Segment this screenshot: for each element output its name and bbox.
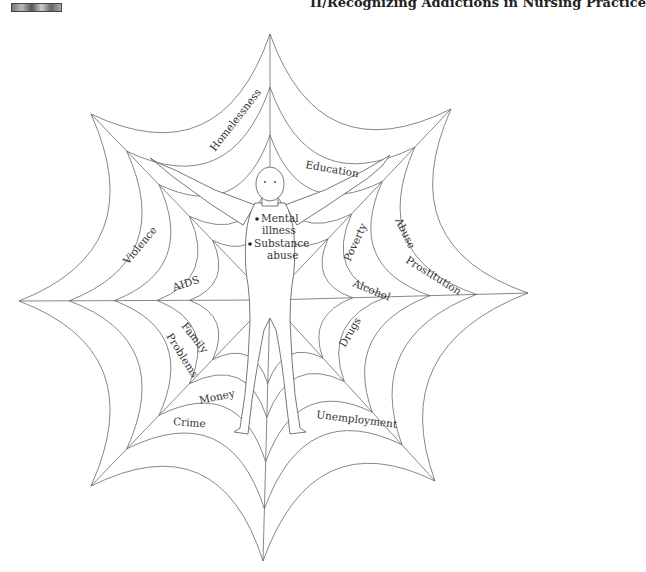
right-eye [274,181,276,183]
web-ring-arc [91,466,263,561]
web-label-money: Money [198,387,236,406]
web-spoke [263,300,270,561]
web-spoke [19,300,270,301]
web-spoke [270,293,528,300]
web-ring-arc [270,34,451,130]
web-ring-arc [423,293,528,481]
web-label-education: Education [305,158,360,179]
web-label-poverty: Poverty [341,221,369,263]
web-label-prostitution: Prostitution [404,254,464,298]
web-ring-arc [365,296,430,413]
web-ring-arc [114,301,170,416]
web-ring-arc [264,431,402,509]
web-label-crime: Crime [173,415,206,429]
web-ring-arc [69,151,142,301]
web-ring-arc [19,301,110,486]
web-label-homelessness: Homelessness [207,86,263,153]
web-ring-arc [19,114,110,301]
web-label-alcohol: Alcohol [350,276,393,303]
web-label-abuse: Abuse [393,215,419,251]
left-eye [264,181,266,183]
web-ring-arc [433,109,528,293]
web-label-drugs: Drugs [336,315,363,349]
web-label-unemployment: Unemployment [316,408,399,430]
head [256,167,284,201]
center-label-mental: Mentalillness [261,212,299,236]
web-ring-arc [263,463,435,561]
web-ring-arc [392,294,476,444]
web-label-violence: Violence [120,224,159,267]
web-ring-arc [268,352,323,383]
web-ring-arc [270,87,415,164]
web-ring-arc [69,301,142,449]
web-ring-arc [127,433,265,509]
web-label-aids: AIDS [170,273,201,293]
